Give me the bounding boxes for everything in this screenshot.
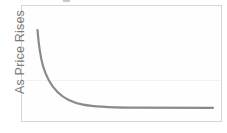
curve-plot-svg: [0, 0, 227, 133]
demand-curve-line: [38, 30, 214, 108]
chart-figure: As Price Rises: [0, 0, 227, 133]
